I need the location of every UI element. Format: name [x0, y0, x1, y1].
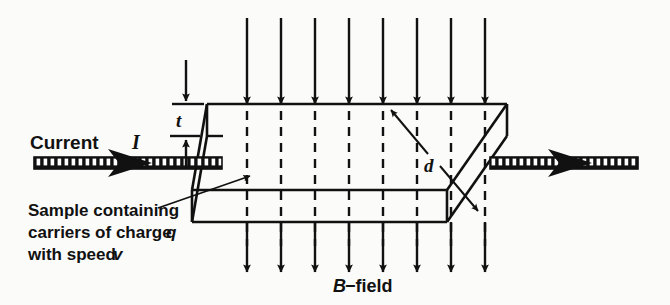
thickness-label: t [176, 110, 182, 131]
current-symbol: I [131, 131, 141, 153]
sample-caption-line2: carriers of charge [28, 223, 172, 242]
b-field-lines-lower [247, 222, 485, 272]
current-label: Current [30, 132, 99, 153]
bfield-label: −field [345, 276, 393, 296]
figure-canvas: t d Current I Sample containing carriers… [0, 0, 670, 305]
hall-effect-figure: t d Current I Sample containing carriers… [0, 0, 670, 305]
b-field-lines-upper [247, 18, 485, 104]
sample-speed-symbol: v [113, 245, 124, 264]
sample-caption-line1: Sample containing [28, 201, 179, 220]
depth-label: d [424, 155, 434, 176]
current-wire-right [490, 149, 638, 177]
sample-caption-line3: with speed [27, 245, 116, 264]
sample-charge-symbol: q [166, 223, 177, 242]
